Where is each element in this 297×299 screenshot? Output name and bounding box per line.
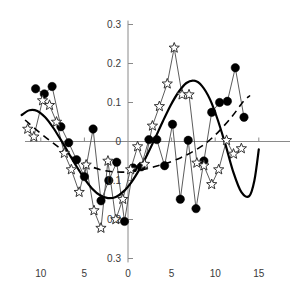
data-point-circle xyxy=(160,162,168,170)
data-point-star xyxy=(154,101,164,111)
data-point-star xyxy=(96,223,106,233)
y-tick-label: 0.2 xyxy=(107,58,121,69)
y-tick-label: 0.2 xyxy=(107,214,121,225)
data-point-star xyxy=(207,179,217,189)
x-tick-label: 10 xyxy=(35,268,47,279)
y-tick-label: 0.3 xyxy=(107,19,121,30)
data-point-star xyxy=(162,78,172,88)
data-point-star xyxy=(44,100,54,110)
data-point-star xyxy=(23,124,33,134)
x-tick-label: 5 xyxy=(169,268,175,279)
data-point-circle xyxy=(65,139,73,147)
data-point-circle xyxy=(240,113,248,121)
y-tick-label: 0 xyxy=(115,136,121,147)
x-tick-label: 5 xyxy=(82,268,88,279)
data-point-circle xyxy=(89,125,97,133)
data-point-circle xyxy=(40,90,48,98)
data-point-circle xyxy=(184,136,192,144)
y-tick-label: 0.3 xyxy=(107,253,121,264)
x-tick-label: 15 xyxy=(253,268,265,279)
y-tick-label: 0.1 xyxy=(107,97,121,108)
data-point-circle xyxy=(97,197,105,205)
x-tick-label: 0 xyxy=(125,268,131,279)
y-tick-label: 0.1 xyxy=(107,175,121,186)
data-point-circle xyxy=(208,108,216,116)
data-point-circle xyxy=(153,135,161,143)
data-point-circle xyxy=(223,97,231,105)
x-tick-label: 10 xyxy=(210,268,222,279)
data-point-circle xyxy=(168,120,176,128)
data-point-star xyxy=(214,164,224,174)
data-point-circle xyxy=(176,195,184,203)
chart-plot-area: 105051015 0.30.20.100.10.20.3 xyxy=(0,0,297,299)
chart-container: 105051015 0.30.20.100.10.20.3 xyxy=(0,0,297,299)
data-point-circle xyxy=(80,172,88,180)
data-point-circle xyxy=(31,85,39,93)
data-point-circle xyxy=(192,204,200,212)
data-point-star xyxy=(147,121,157,131)
data-point-circle xyxy=(48,82,56,90)
data-point-circle xyxy=(215,98,223,106)
x-axis-tick-labels: 105051015 xyxy=(35,268,265,279)
data-point-circle xyxy=(120,217,128,225)
data-point-star xyxy=(74,187,84,197)
data-point-star xyxy=(89,205,99,215)
data-point-circle xyxy=(145,135,153,143)
data-point-circle xyxy=(72,156,80,164)
data-point-circle xyxy=(231,64,239,72)
data-point-star xyxy=(132,141,142,151)
series-markers-group xyxy=(23,43,249,233)
data-point-star xyxy=(59,148,69,158)
data-point-star xyxy=(169,43,179,53)
